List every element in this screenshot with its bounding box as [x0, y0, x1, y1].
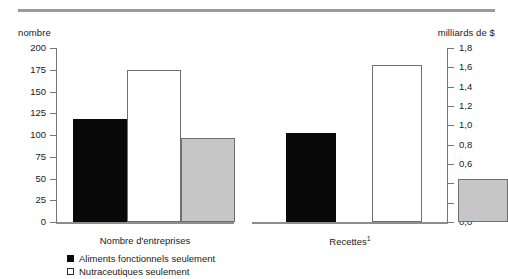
left-axis-tick-label: 75: [14, 152, 46, 162]
right-axis-tick: [447, 87, 454, 88]
left-axis-tick: [50, 70, 57, 71]
legend-item-label: Nutraceutiques seulement: [79, 267, 189, 277]
right-axis-tick-label: 1,0: [459, 120, 493, 130]
right-axis-tick-label: 1,6: [459, 62, 493, 72]
left-axis-tick-label: 150: [14, 87, 46, 97]
group-label-nombre-dentreprises: Nombre d'entreprises: [56, 235, 234, 246]
right-axis-spine: [447, 48, 448, 223]
right-axis-tick: [447, 164, 454, 165]
legend-swatch-white-icon: [67, 268, 74, 275]
right-axis-tick-label: 1,4: [459, 82, 493, 92]
group-label-recettes-text: Recettes: [329, 236, 367, 247]
right-axis-tick: [447, 48, 454, 49]
legend-item-label: Aliments fonctionnels seulement: [79, 254, 215, 264]
bar-grey-group-2: [458, 179, 508, 223]
left-axis-tick: [50, 179, 57, 180]
right-axis-tick: [447, 203, 454, 204]
right-axis-tick: [447, 222, 454, 223]
left-axis-tick-label: 25: [14, 195, 46, 205]
group-label-recettes: Recettes1: [252, 235, 448, 247]
right-axis-tick-label: 1,8: [459, 43, 493, 53]
bar-grey-group-1: [181, 138, 235, 222]
left-axis-tick: [50, 157, 57, 158]
left-axis-tick-label: 200: [14, 43, 46, 53]
right-axis-tick: [447, 145, 454, 146]
left-axis-tick: [50, 135, 57, 136]
right-axis-tick-label: 1,2: [459, 101, 493, 111]
left-axis-tick-label: 125: [14, 108, 46, 118]
left-axis-tick-label: 100: [14, 130, 46, 140]
bar-black-group-2: [286, 133, 336, 222]
legend-swatch-black-icon: [67, 255, 74, 262]
right-axis-tick: [447, 67, 454, 68]
left-axis-tick: [50, 48, 57, 49]
group-label-recettes-footnote: 1: [367, 235, 371, 242]
bar-white-group-1: [127, 70, 181, 222]
bar-black-group-1: [73, 119, 127, 222]
right-axis-tick: [447, 125, 454, 126]
left-axis-tick: [50, 222, 57, 223]
baseline-group-2: [252, 222, 448, 224]
baseline-group-1: [56, 222, 234, 224]
left-axis-tick: [50, 113, 57, 114]
legend: Aliments fonctionnels seulement Nutraceu…: [67, 252, 215, 278]
right-axis-tick-label: 0,8: [459, 140, 493, 150]
left-axis-tick: [50, 92, 57, 93]
bar-white-group-2: [372, 65, 422, 222]
left-axis-tick-label: 0: [14, 217, 46, 227]
right-axis-tick: [447, 183, 454, 184]
left-axis-tick-label: 50: [14, 174, 46, 184]
legend-item: Aliments fonctionnels seulement: [67, 252, 215, 265]
right-axis-tick-label: 0,6: [459, 159, 493, 169]
left-axis-tick-label: 175: [14, 65, 46, 75]
right-axis-tick: [447, 106, 454, 107]
left-axis-tick: [50, 200, 57, 201]
legend-item: Nutraceutiques seulement: [67, 265, 215, 278]
